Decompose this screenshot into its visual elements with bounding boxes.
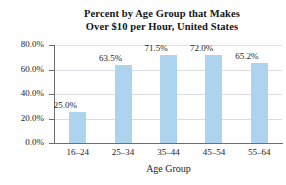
y-axis-tick-mark (49, 94, 54, 95)
y-axis-tick-label: 0.0% (0, 138, 44, 147)
bar-value-label: 71.5% (145, 44, 168, 53)
bar (69, 112, 86, 143)
y-axis-tick-label: 20.0% (0, 114, 44, 123)
bar (115, 65, 132, 143)
bar (160, 55, 177, 143)
chart-title: Percent by Age Group that Makes Over $10… (42, 8, 282, 33)
chart-title-line-2: Over $10 per Hour, United States (42, 21, 282, 34)
y-axis-tick-label: 60.0% (0, 65, 44, 74)
y-axis-tick-mark (49, 70, 54, 71)
bar-value-label: 25.0% (54, 101, 77, 110)
bar-value-label: 63.5% (99, 54, 122, 63)
y-axis-tick-mark (49, 143, 54, 144)
x-axis-category-label: 55–64 (232, 147, 286, 157)
bar (205, 55, 222, 143)
gridline (55, 45, 282, 46)
chart-title-line-1: Percent by Age Group that Makes (42, 8, 282, 21)
x-axis-line (54, 143, 283, 144)
bar (251, 63, 268, 143)
y-axis-tick-mark (49, 45, 54, 46)
bar-chart: Percent by Age Group that Makes Over $10… (0, 0, 286, 185)
bar-value-label: 65.2% (235, 52, 258, 61)
y-axis-tick-label: 80.0% (0, 40, 44, 49)
y-axis-tick-mark (49, 119, 54, 120)
bar-value-label: 72.0% (190, 44, 213, 53)
y-axis-tick-label: 40.0% (0, 89, 44, 98)
x-axis-title: Age Group (55, 163, 282, 175)
